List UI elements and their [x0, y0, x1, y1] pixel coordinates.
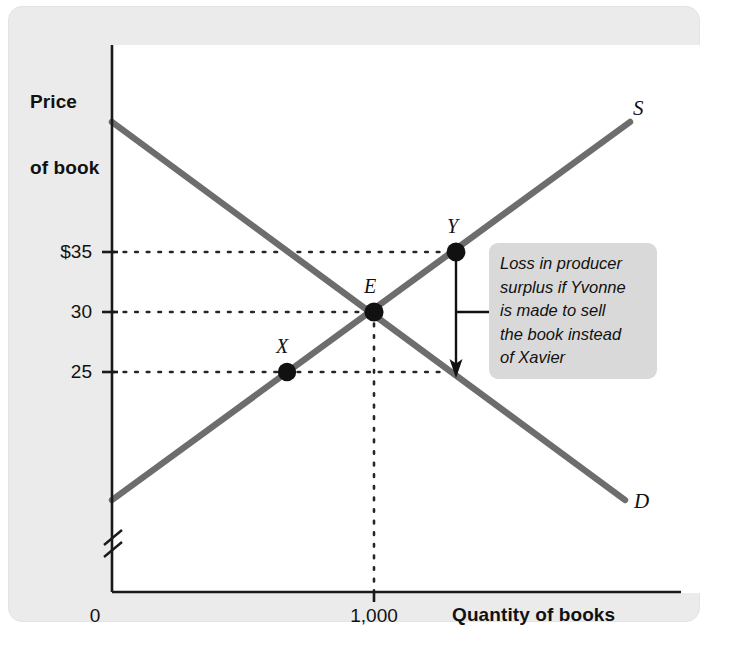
annotation-callout: Loss in producer surplus if Yvonne is ma…: [489, 243, 657, 379]
y-tick-marks: [102, 252, 118, 372]
y-axis-title-line1: Price: [30, 91, 99, 113]
demand-curve-label: D: [634, 489, 649, 514]
annotation-line-2: surplus if Yvonne: [500, 276, 647, 300]
y-tick-label-35: $35: [30, 241, 92, 263]
y-tick-label-30: 30: [30, 301, 92, 323]
point-label-X: X: [276, 335, 288, 358]
x-axis-title: Quantity of books: [452, 604, 615, 626]
loss-arrow: [450, 258, 493, 378]
y-axis-title-line2: of book: [30, 157, 99, 179]
x-tick-label-1000: 1,000: [334, 605, 414, 627]
annotation-line-4: the book instead: [500, 323, 647, 347]
y-tick-label-25: 25: [30, 361, 92, 383]
point-label-Y: Y: [447, 215, 458, 238]
supply-demand-figure: Price of book $35 30 25 0 1,000 Quantity…: [0, 0, 743, 655]
annotation-line-1: Loss in producer: [500, 252, 647, 276]
point-Y: [447, 243, 466, 262]
point-label-E: E: [364, 275, 376, 298]
annotation-line-5: of Xavier: [500, 346, 647, 370]
origin-label: 0: [82, 605, 108, 627]
point-X: [278, 363, 296, 381]
supply-curve-label: S: [633, 96, 644, 121]
y-axis-title: Price of book: [30, 47, 99, 223]
point-E: [364, 302, 383, 321]
guide-lines: [112, 252, 456, 592]
annotation-line-3: is made to sell: [500, 299, 647, 323]
